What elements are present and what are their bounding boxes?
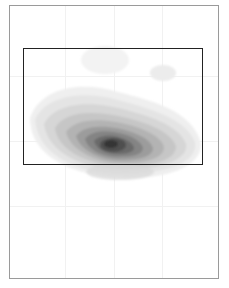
region-of-interest-box — [23, 48, 203, 165]
